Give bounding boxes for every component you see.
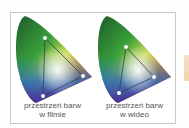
adjacent-content-fragment [184,55,189,81]
caption-line-1: przestrzeń barw [93,101,176,110]
vertex-green [43,36,47,40]
vertex-blue [117,91,121,95]
video-gamut-caption: przestrzeń barw w wideo [93,101,176,119]
caption-line-2: w wideo [93,110,176,119]
vertex-green [124,45,128,49]
video-gamut-panel: przestrzeń barw w wideo [93,13,176,123]
vertex-blue [41,94,45,98]
caption-line-2: w filmie [11,110,94,119]
gamut-comparison-frame: przestrzeń barw w filmie przestrzeń barw… [10,12,176,124]
film-gamut-panel: przestrzeń barw w filmie [11,13,94,123]
caption-line-1: przestrzeń barw [11,101,94,110]
film-gamut-caption: przestrzeń barw w filmie [11,101,94,119]
vertex-red [152,75,156,79]
vertex-red [81,74,85,78]
